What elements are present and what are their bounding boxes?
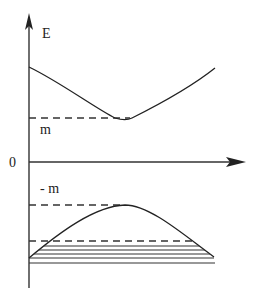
upper-band-curve (29, 67, 215, 120)
origin-label: 0 (9, 155, 16, 170)
upper-band (29, 67, 215, 120)
energy-band-diagram: E 0 m - m (0, 0, 258, 305)
x-axis (29, 157, 246, 167)
upper-gap-label: m (40, 122, 51, 137)
lower-gap-label: - m (40, 181, 59, 196)
y-axis-label: E (42, 26, 51, 41)
lower-band (29, 205, 220, 263)
y-axis (25, 13, 33, 288)
filled-states (29, 246, 220, 258)
